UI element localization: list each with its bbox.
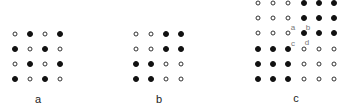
open-dot-icon (286, 16, 291, 21)
point-label: b (306, 23, 310, 32)
filled-dot-icon (285, 76, 291, 82)
filled-dot-icon (270, 46, 276, 52)
filled-dot-icon (148, 76, 154, 82)
filled-dot-icon (331, 30, 337, 36)
open-dot-icon (13, 32, 18, 37)
point-label: a (291, 23, 295, 32)
open-dot-icon (164, 77, 169, 82)
filled-dot-icon (331, 15, 337, 21)
filled-dot-icon (42, 76, 48, 82)
filled-dot-icon (255, 46, 261, 52)
open-dot-icon (301, 77, 306, 82)
filled-dot-icon (270, 61, 276, 67)
open-dot-icon (164, 62, 169, 67)
open-dot-icon (316, 46, 321, 51)
filled-dot-icon (57, 31, 63, 37)
open-dot-icon (301, 46, 306, 51)
open-dot-icon (134, 47, 139, 52)
open-dot-icon (271, 16, 276, 21)
open-dot-icon (58, 77, 63, 82)
open-dot-icon (271, 31, 276, 36)
open-dot-icon (256, 16, 261, 21)
filled-dot-icon (12, 76, 18, 82)
panel-caption: c (293, 92, 299, 104)
filled-dot-icon (12, 46, 18, 52)
open-dot-icon (256, 1, 261, 6)
open-dot-icon (43, 32, 48, 37)
filled-dot-icon (255, 76, 261, 82)
filled-dot-icon (178, 46, 184, 52)
open-dot-icon (149, 47, 154, 52)
filled-dot-icon (42, 46, 48, 52)
open-dot-icon (179, 77, 184, 82)
filled-dot-icon (255, 61, 261, 67)
panel-caption: a (35, 93, 41, 105)
open-dot-icon (332, 61, 337, 66)
filled-dot-icon (331, 0, 337, 6)
filled-dot-icon (133, 61, 139, 67)
open-dot-icon (58, 47, 63, 52)
filled-dot-icon (27, 61, 33, 67)
open-dot-icon (316, 77, 321, 82)
filled-dot-icon (316, 0, 322, 6)
open-dot-icon (149, 32, 154, 37)
filled-dot-icon (148, 61, 154, 67)
panel-caption: b (156, 93, 162, 105)
filled-dot-icon (316, 30, 322, 36)
open-dot-icon (179, 62, 184, 67)
open-dot-icon (286, 1, 291, 6)
filled-dot-icon (163, 46, 169, 52)
open-dot-icon (28, 47, 33, 52)
point-label: c (291, 39, 295, 48)
open-dot-icon (286, 31, 291, 36)
open-dot-icon (271, 1, 276, 6)
filled-dot-icon (133, 76, 139, 82)
filled-dot-icon (27, 31, 33, 37)
open-dot-icon (13, 62, 18, 67)
filled-dot-icon (163, 31, 169, 37)
open-dot-icon (332, 46, 337, 51)
open-dot-icon (43, 62, 48, 67)
filled-dot-icon (316, 15, 322, 21)
filled-dot-icon (301, 15, 307, 21)
open-dot-icon (28, 77, 33, 82)
open-dot-icon (301, 61, 306, 66)
filled-dot-icon (270, 76, 276, 82)
open-dot-icon (256, 31, 261, 36)
open-dot-icon (134, 32, 139, 37)
open-dot-icon (332, 77, 337, 82)
filled-dot-icon (178, 31, 184, 37)
filled-dot-icon (285, 61, 291, 67)
filled-dot-icon (57, 61, 63, 67)
point-label: d (305, 38, 309, 47)
filled-dot-icon (301, 0, 307, 6)
open-dot-icon (316, 61, 321, 66)
